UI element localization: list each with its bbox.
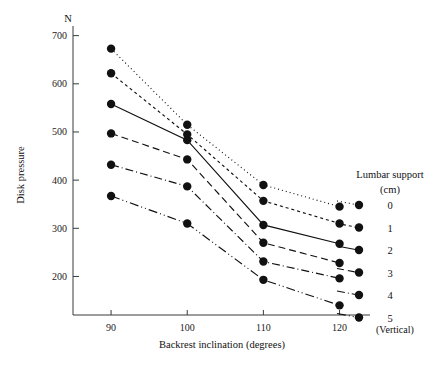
data-point-marker: [335, 274, 343, 282]
y-axis-ticks: 200300400500600700: [52, 30, 79, 282]
legend-item-label: 4: [387, 290, 393, 301]
data-point-marker: [183, 155, 191, 163]
data-point-marker: [335, 202, 343, 210]
data-point-marker: [335, 301, 343, 309]
x-axis-vertical-note: (Vertical): [376, 324, 414, 336]
data-point-marker: [259, 221, 267, 229]
data-point-marker: [259, 197, 267, 205]
chart-svg: 200300400500600700 90100110120 N Disk pr…: [0, 0, 441, 365]
series-line: [111, 133, 339, 263]
chart-legend: Lumbar support (cm) 012345: [337, 169, 424, 324]
legend-title-line1: Lumbar support: [356, 169, 423, 180]
legend-item[interactable]: 0: [337, 200, 393, 211]
data-series: [107, 69, 344, 228]
data-point-marker: [107, 44, 115, 52]
data-point-marker: [183, 136, 191, 144]
legend-marker-icon: [355, 268, 363, 276]
data-series: [107, 161, 344, 283]
data-point-marker: [107, 192, 115, 200]
legend-item-label: 5: [387, 313, 392, 324]
legend-item-label: 1: [387, 223, 392, 234]
data-point-marker: [259, 181, 267, 189]
legend-marker-icon: [355, 223, 363, 231]
legend-item[interactable]: 3: [337, 268, 393, 279]
y-axis-unit-label: N: [64, 13, 72, 24]
legend-item-label: 3: [387, 268, 392, 279]
data-point-marker: [183, 121, 191, 129]
legend-title-line2: (cm): [380, 184, 400, 196]
x-axis-ticks: 90100110120: [106, 310, 347, 333]
data-point-marker: [259, 239, 267, 247]
x-tick-label: 100: [180, 322, 195, 333]
y-tick-label: 500: [52, 126, 67, 137]
data-point-marker: [335, 259, 343, 267]
y-axis-title: Disk pressure: [15, 146, 26, 204]
disk-pressure-chart: 200300400500600700 90100110120 N Disk pr…: [0, 0, 441, 365]
y-tick-label: 200: [52, 271, 67, 282]
legend-items: 012345: [337, 200, 393, 324]
data-point-marker: [183, 219, 191, 227]
legend-marker-icon: [355, 246, 363, 254]
data-point-marker: [107, 69, 115, 77]
legend-marker-icon: [355, 313, 363, 321]
axes: [73, 26, 370, 315]
legend-item[interactable]: 1: [337, 223, 393, 234]
data-point-marker: [259, 257, 267, 265]
data-series: [107, 192, 344, 310]
series-line: [111, 104, 339, 244]
y-tick-label: 600: [52, 78, 67, 89]
y-tick-label: 400: [52, 175, 67, 186]
y-tick-label: 300: [52, 223, 67, 234]
legend-item[interactable]: 4: [337, 290, 393, 301]
x-tick-label: 90: [106, 322, 116, 333]
data-series-group: [107, 44, 344, 309]
data-series: [107, 44, 344, 210]
legend-marker-icon: [355, 291, 363, 299]
legend-item-label: 2: [387, 245, 392, 256]
x-tick-label: 110: [256, 322, 271, 333]
legend-item-label: 0: [387, 200, 392, 211]
data-series: [107, 129, 344, 267]
legend-marker-icon: [355, 201, 363, 209]
data-point-marker: [107, 129, 115, 137]
data-point-marker: [259, 276, 267, 284]
data-point-marker: [183, 182, 191, 190]
x-tick-label: 120: [332, 322, 347, 333]
data-point-marker: [107, 100, 115, 108]
data-point-marker: [107, 161, 115, 169]
series-line: [111, 196, 339, 305]
legend-item[interactable]: 2: [337, 245, 393, 256]
x-axis-title: Backrest inclination (degrees): [159, 339, 285, 351]
y-tick-label: 700: [52, 30, 67, 41]
